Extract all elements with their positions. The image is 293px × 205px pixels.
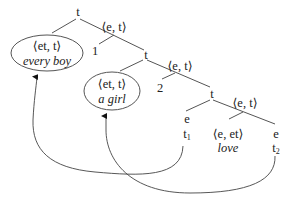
branch-t2-left [120,60,143,71]
abstraction-type-1: ⟨e, t⟩ [101,21,126,34]
trace-1: t1 [183,128,190,142]
branch-verb [229,112,243,119]
object-type: e [273,128,279,141]
a-girl-word: a girl [98,93,125,106]
syntax-tree-diagram: t ⟨et, t⟩ every boy ⟨e, t⟩ 1 t ⟨et, t⟩ a… [0,0,293,205]
verb-word: love [218,142,239,155]
verb-type: ⟨e, et⟩ [213,128,244,141]
every-boy-word: every boy [23,55,71,68]
branch-root-left [52,19,76,33]
trace-2: t2 [272,142,279,156]
t-node-2: t [144,49,147,62]
subject-type: e [184,113,190,126]
a-girl-type: ⟨et, t⟩ [98,78,127,91]
branch-index-2 [162,73,175,79]
index-1: 1 [92,45,98,58]
root-node-label: t [76,6,79,19]
t-node-3: t [210,88,213,101]
branch-t3-left [186,100,210,111]
abstraction-type-2: ⟨e, t⟩ [167,60,192,73]
vp-type: ⟨e, t⟩ [232,97,257,110]
branch-index-1 [99,35,114,44]
every-boy-type: ⟨et, t⟩ [33,40,62,53]
index-2: 2 [157,82,163,95]
